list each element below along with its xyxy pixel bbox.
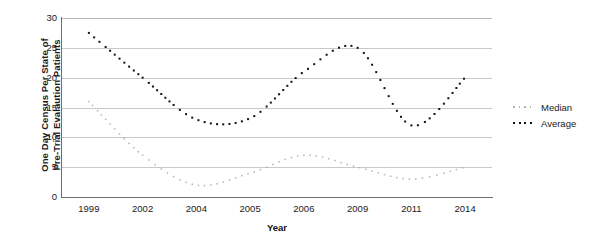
y-tick-label: 10 [31,132,57,142]
legend-dot [524,106,526,108]
legend-item-median[interactable]: Median [512,99,596,115]
x-tick-label: 1999 [66,203,112,214]
x-tick-label: 2005 [227,203,273,214]
y-tick-label: 5 [31,162,57,172]
x-tick-label: 2014 [442,203,488,214]
legend-dot [530,106,532,108]
series-average [88,32,465,126]
legend-dot [530,122,532,124]
chart-legend: Median Average [512,99,596,131]
legend-dot [513,106,515,108]
x-tick-label: 2009 [335,203,381,214]
series-median [88,101,463,187]
legend-dot [524,122,526,124]
x-axis-line [61,197,493,198]
y-tick-label: 0 [31,192,57,202]
x-axis-title: Year [62,222,492,233]
legend-dot [513,122,515,124]
x-tick-label: 2002 [120,203,166,214]
y-tick-label: 25 [31,43,57,53]
y-tick-label: 15 [31,103,57,113]
x-tick-label: 2006 [281,203,327,214]
legend-dot [519,106,521,108]
legend-swatch-median [512,102,536,112]
chart-figure: One Day Census Per State of Pre-Trial Ev… [0,0,601,245]
legend-label-median: Median [541,102,572,113]
y-tick-label: 30 [31,13,57,23]
x-tick-label: 2004 [173,203,219,214]
legend-dot [519,122,521,124]
x-tick-label: 2011 [388,203,434,214]
series-layer [62,18,492,197]
plot-area [62,18,492,197]
legend-label-average: Average [541,118,576,129]
legend-swatch-average [512,118,536,128]
legend-item-average[interactable]: Average [512,115,596,131]
y-tick-label: 20 [31,73,57,83]
